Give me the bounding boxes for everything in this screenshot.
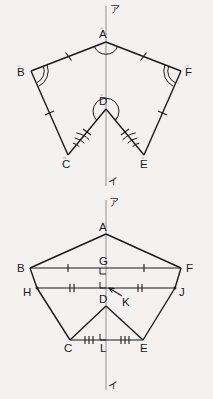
axis-label-bottom-a: ア [109,197,119,208]
figure-bottom: A B F H J C E D G K L ア イ [0,0,213,399]
vertex-label-K-bottom: K [122,296,130,308]
point-J-dot [174,287,177,290]
edge-B-H-bottom [30,268,37,288]
vertex-label-B-bottom: B [17,262,25,274]
edge-F-J-bottom [175,268,181,288]
edge-A-F-bottom [106,234,181,268]
right-angle-at-l [100,334,106,340]
axis-label-bottom-i: イ [108,380,118,391]
vertex-label-E-bottom: E [140,342,148,354]
edge-B-A-bottom [30,234,106,268]
right-angle-at-g [100,268,106,274]
vertex-label-A-bottom: A [99,221,107,233]
edge-E-D-bottom [106,306,143,340]
edge-J-E-bottom [143,288,175,340]
vertex-label-C-bottom: C [64,342,72,354]
vertex-label-D-bottom: D [99,293,107,305]
diagram-canvas: A B F C E D ≂ ≂ ≂ ≂ ≂ ≂ ア イ [0,0,213,399]
vertex-label-G-bottom: G [99,255,108,267]
edge-C-D-bottom [70,306,106,340]
vertex-label-H-bottom: H [23,286,31,298]
vertex-label-F-bottom: F [186,262,193,274]
k-pointer-arrow [109,288,122,296]
right-angle-at-k [100,282,106,288]
vertex-label-J-bottom: J [179,286,185,298]
edge-H-C-bottom [37,288,70,340]
point-H-dot [36,287,39,290]
vertex-label-L-bottom: L [100,342,107,354]
